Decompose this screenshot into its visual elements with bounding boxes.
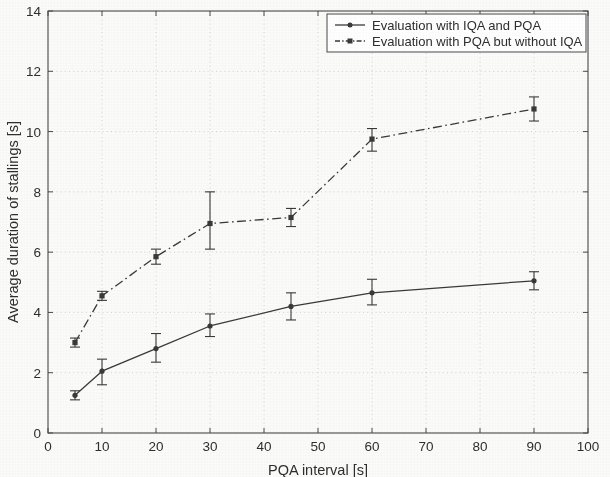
gridlines — [48, 11, 588, 433]
data-point — [153, 254, 158, 259]
y-axis-label: Average duration of stallings [s] — [5, 121, 21, 323]
x-tick-label: 100 — [577, 439, 600, 454]
x-tick-label: 40 — [256, 439, 271, 454]
y-tick-labels: 02468101214 — [26, 4, 42, 441]
data-point — [288, 304, 293, 309]
series-2 — [70, 97, 539, 347]
series-1 — [70, 272, 539, 400]
legend-item-label: Evaluation with IQA and PQA — [372, 18, 541, 33]
series-line — [75, 109, 534, 343]
x-axis-label: PQA interval [s] — [268, 462, 368, 477]
data-point — [99, 293, 104, 298]
y-tick-label: 14 — [26, 4, 42, 19]
data-point — [153, 346, 158, 351]
chart-legend: Evaluation with IQA and PQAEvaluation wi… — [327, 14, 586, 52]
x-tick-labels: 0102030405060708090100 — [44, 439, 599, 454]
x-tick-label: 10 — [94, 439, 109, 454]
data-point — [72, 393, 77, 398]
x-tick-label: 0 — [44, 439, 52, 454]
figure-page: 0102030405060708090100 02468101214 Evalu… — [0, 0, 610, 477]
x-tick-label: 30 — [202, 439, 217, 454]
x-tick-label: 70 — [418, 439, 433, 454]
x-tick-label: 90 — [526, 439, 541, 454]
series-line — [75, 281, 534, 396]
x-tick-label: 80 — [472, 439, 487, 454]
data-point — [99, 369, 104, 374]
chart-canvas: 0102030405060708090100 02468101214 Evalu… — [0, 0, 610, 477]
data-point — [207, 221, 212, 226]
y-tick-label: 12 — [26, 64, 41, 79]
y-tick-label: 6 — [33, 245, 41, 260]
chart-figure: 0102030405060708090100 02468101214 Evalu… — [0, 0, 610, 477]
data-point — [288, 215, 293, 220]
data-point — [207, 323, 212, 328]
data-point — [531, 106, 536, 111]
legend-marker — [348, 39, 353, 44]
y-tick-label: 0 — [33, 426, 41, 441]
error-bar — [205, 192, 215, 249]
y-tick-label: 2 — [33, 366, 41, 381]
y-tick-label: 8 — [33, 185, 41, 200]
data-point — [531, 278, 536, 283]
data-point — [369, 137, 374, 142]
data-point — [72, 340, 77, 345]
data-point — [369, 290, 374, 295]
x-tick-label: 60 — [364, 439, 379, 454]
legend-marker — [348, 23, 353, 28]
data-series-layer — [70, 97, 539, 400]
x-tick-label: 20 — [148, 439, 163, 454]
legend-item-label: Evaluation with PQA but without IQA — [372, 34, 583, 49]
x-tick-label: 50 — [310, 439, 325, 454]
y-tick-label: 4 — [33, 305, 41, 320]
y-tick-label: 10 — [26, 125, 41, 140]
